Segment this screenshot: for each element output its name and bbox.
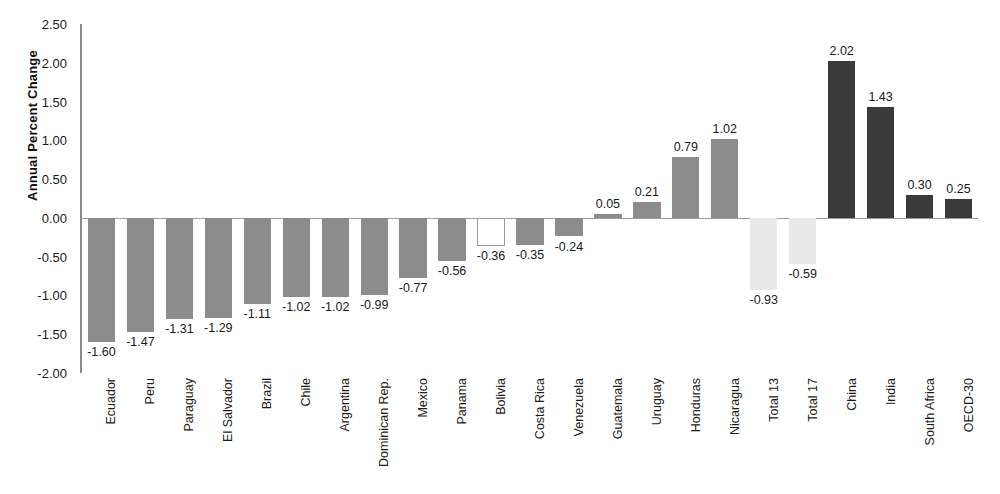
bar-item: -1.47 [127, 24, 154, 373]
x-axis-label-slot: Costa Rica [514, 373, 541, 494]
bar-item: -1.02 [283, 24, 310, 373]
x-axis-label-slot: Venezuela [553, 373, 580, 494]
x-axis-label-slot: Guatemala [592, 373, 619, 494]
bar [750, 218, 777, 290]
bar [477, 218, 504, 246]
bar-item: 1.02 [711, 24, 738, 373]
x-axis-label-slot: Peru [125, 373, 152, 494]
bar-chart: Annual Percent Change 2.502.001.501.000.… [0, 0, 1000, 494]
x-axis-category-label: Panama [455, 378, 469, 425]
bar-value-label: 0.25 [946, 183, 970, 196]
x-axis-category-label: El Salvador [221, 378, 235, 442]
bar-value-label: -0.93 [749, 294, 778, 307]
bar-item: -0.35 [516, 24, 543, 373]
x-axis-label-slot: Mexico [397, 373, 424, 494]
x-axis-category-label: Dominican Rep. [377, 378, 391, 467]
bar [828, 61, 855, 218]
y-axis-tick-label: -2.00 [37, 366, 67, 381]
bar-value-label: 0.79 [674, 141, 698, 154]
x-axis-label-slot: Chile [281, 373, 308, 494]
bar [867, 107, 894, 218]
x-axis-label-slot: South Africa [904, 373, 931, 494]
x-axis-category-label: South Africa [923, 378, 937, 445]
bar-value-label: -0.35 [516, 249, 545, 262]
x-axis-category-label: OECD-30 [962, 378, 976, 432]
bar-series: -1.60-1.47-1.31-1.29-1.11-1.02-1.02-0.99… [82, 24, 978, 373]
bar [945, 199, 972, 218]
bar [361, 218, 388, 295]
x-axis-label-slot: Uruguay [631, 373, 658, 494]
y-axis-tick-label: 2.50 [42, 17, 67, 32]
x-axis-label-slot: Paraguay [164, 373, 191, 494]
bar [711, 139, 738, 218]
bar-item: 0.79 [672, 24, 699, 373]
bar [283, 218, 310, 297]
x-axis-category-label: Paraguay [182, 378, 196, 432]
y-axis-tick-label: 0.50 [42, 172, 67, 187]
x-axis-category-label: Honduras [689, 378, 703, 432]
bar-value-label: -0.56 [438, 265, 467, 278]
bar-item: -1.02 [322, 24, 349, 373]
bar-value-label: 0.05 [596, 198, 620, 211]
bar [633, 202, 660, 218]
bar-value-label: -0.59 [788, 268, 817, 281]
x-axis-label-slot: Ecuador [86, 373, 113, 494]
x-axis-label-slot: El Salvador [203, 373, 230, 494]
x-axis-category-label: Peru [143, 378, 157, 404]
plot-area: -1.60-1.47-1.31-1.29-1.11-1.02-1.02-0.99… [80, 24, 978, 373]
bar-value-label: -1.11 [243, 308, 271, 321]
x-axis-category-label: Ecuador [104, 378, 118, 425]
bar [516, 218, 543, 245]
bar [166, 218, 193, 320]
bar [322, 218, 349, 297]
x-axis-category-label: Argentina [338, 378, 352, 432]
bar-value-label: 1.02 [713, 123, 737, 136]
x-axis-category-label: Brazil [260, 378, 274, 409]
bar-item: -0.77 [399, 24, 426, 373]
bar-value-label: 2.02 [829, 45, 853, 58]
bar-item: -1.60 [88, 24, 115, 373]
bar-value-label: 1.43 [868, 91, 892, 104]
x-axis-label-slot: Argentina [320, 373, 347, 494]
bar-item: 2.02 [828, 24, 855, 373]
bar-item: -0.59 [789, 24, 816, 373]
x-axis-label-slot: Brazil [242, 373, 269, 494]
x-axis-category-label: Total 13 [767, 378, 781, 422]
bar-item: 0.25 [945, 24, 972, 373]
y-axis-tick-label: 2.00 [42, 55, 67, 70]
x-axis-label-slot: Total 13 [748, 373, 775, 494]
bar-value-label: 0.30 [907, 179, 931, 192]
bar-item: -0.99 [361, 24, 388, 373]
x-axis-category-label: Costa Rica [533, 378, 547, 439]
x-axis-category-label: Bolivia [494, 378, 508, 415]
x-axis-label-slot: Dominican Rep. [359, 373, 386, 494]
x-axis-label-slot: Total 17 [787, 373, 814, 494]
x-axis-category-label: Uruguay [650, 378, 664, 425]
bar [555, 218, 582, 237]
bar-value-label: -1.29 [204, 322, 233, 335]
x-axis-label-slot: Nicaragua [709, 373, 736, 494]
bar-item: -1.31 [166, 24, 193, 373]
x-axis-category-label: Nicaragua [728, 378, 742, 435]
bar [88, 218, 115, 342]
y-axis-tick-label: -1.50 [37, 327, 67, 342]
bar-item: -1.29 [205, 24, 232, 373]
bar-item: 0.30 [906, 24, 933, 373]
bar-value-label: -0.99 [360, 299, 389, 312]
bar-value-label: -1.31 [165, 323, 194, 336]
x-axis-label-slot: Honduras [670, 373, 697, 494]
x-axis-category-label: Chile [299, 378, 313, 407]
y-axis-tick-label: 1.00 [42, 133, 67, 148]
x-axis-label-slot: Panama [436, 373, 463, 494]
x-axis-category-label: Guatemala [611, 378, 625, 439]
bar [205, 218, 232, 318]
bar [789, 218, 816, 264]
x-axis-category-label: Total 17 [806, 378, 820, 422]
y-axis-tick-label: 0.00 [42, 210, 67, 225]
bar-item: -0.93 [750, 24, 777, 373]
bar-value-label: -1.47 [126, 336, 155, 349]
bar-value-label: 0.21 [635, 186, 659, 199]
bar [672, 157, 699, 218]
bar-value-label: -0.24 [555, 241, 584, 254]
bar-value-label: -1.02 [282, 301, 311, 314]
